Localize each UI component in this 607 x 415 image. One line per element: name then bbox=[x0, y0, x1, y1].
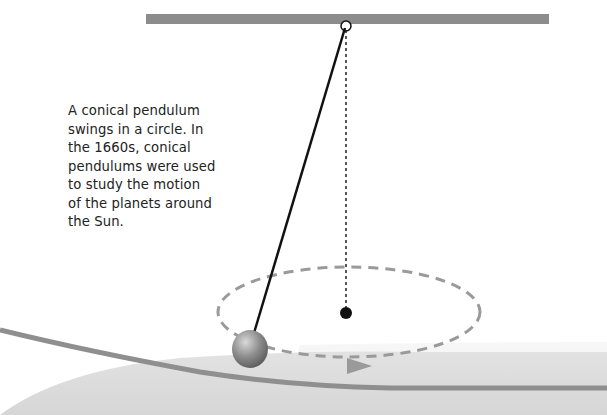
pivot-icon bbox=[341, 21, 351, 31]
caption-line: A conical pendulum bbox=[68, 102, 218, 121]
caption-line: to study the motion bbox=[68, 176, 218, 195]
center-point bbox=[340, 307, 352, 319]
pendulum-string bbox=[254, 28, 345, 333]
caption-line: pendulums were used bbox=[68, 158, 218, 177]
floor bbox=[0, 330, 607, 415]
pendulum-bob bbox=[232, 330, 268, 368]
caption: A conical pendulum swings in a circle. I… bbox=[68, 102, 218, 232]
caption-line: of the planets around bbox=[68, 195, 218, 214]
caption-line: the 1660s, conical bbox=[68, 139, 218, 158]
caption-line: swings in a circle. In bbox=[68, 121, 218, 140]
caption-line: the Sun. bbox=[68, 213, 218, 232]
